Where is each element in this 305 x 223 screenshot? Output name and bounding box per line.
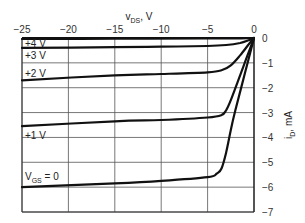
curve-label-plus2: +2 V: [25, 68, 46, 79]
y-tick-label: −6: [262, 182, 274, 193]
y-tick-label: −3: [262, 108, 274, 119]
y-axis-label: iD, mA: [283, 111, 296, 139]
curve-label-plus1: +1 V: [25, 130, 46, 141]
y-tick-label: 0: [262, 33, 268, 44]
y-tick-label: −7: [262, 207, 274, 218]
x-tick-label: −25: [14, 24, 31, 35]
y-tick-label: −4: [262, 132, 274, 143]
y-tick-label: −5: [262, 157, 274, 168]
x-tick-label: −10: [153, 24, 170, 35]
y-tick-label: −2: [262, 83, 274, 94]
curve--2-v: [22, 38, 254, 80]
x-tick-label: 0: [251, 24, 257, 35]
x-tick-label: −5: [202, 24, 214, 35]
transfer-characteristics-chart: −25−20−15−10−500−1−2−3−4−5−6−7 vDS, V iD…: [0, 0, 305, 223]
y-tick-label: −1: [262, 58, 274, 69]
curve-label-plus4: +4 V: [25, 38, 46, 49]
curve--4-v: [22, 38, 254, 39]
curve-label-vgs0: VGS = 0: [25, 171, 59, 184]
x-tick-label: −15: [106, 24, 123, 35]
x-axis-label: vDS, V: [126, 11, 153, 24]
x-tick-label: −20: [60, 24, 77, 35]
curve-label-plus3: +3 V: [25, 50, 46, 61]
